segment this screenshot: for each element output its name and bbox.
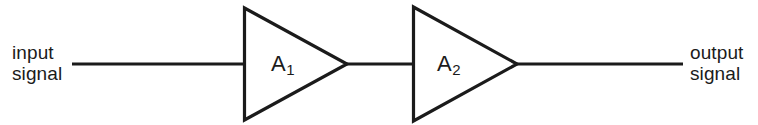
amplifier-2-label: A2 <box>437 51 461 78</box>
output-signal-label: output signal <box>690 42 743 84</box>
amplifier-1-triangle <box>245 8 348 120</box>
output-signal-label-line1: output <box>690 42 743 63</box>
diagram-canvas <box>0 0 758 125</box>
amplifier-2-label-subscript: 2 <box>452 61 461 78</box>
input-signal-label-line2: signal <box>12 63 62 84</box>
amplifier-cascade-diagram: input signal output signal A1 A2 <box>0 0 758 125</box>
input-signal-label-line1: input <box>12 42 62 63</box>
amplifier-2-label-letter: A <box>437 51 452 76</box>
output-signal-label-line2: signal <box>690 63 743 84</box>
amplifier-2-triangle <box>414 7 518 121</box>
amplifier-1-label-letter: A <box>271 51 286 76</box>
amplifier-1-label-subscript: 1 <box>286 61 295 78</box>
amplifier-1-label: A1 <box>271 51 295 78</box>
input-signal-label: input signal <box>12 42 62 84</box>
